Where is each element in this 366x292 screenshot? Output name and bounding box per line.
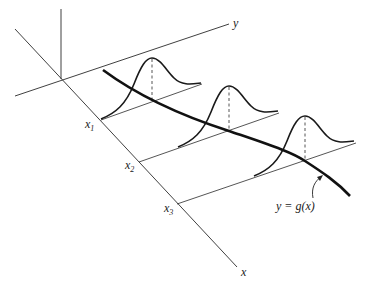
y-axis-label: y <box>232 16 239 30</box>
tick-label-x2: x2 <box>124 158 134 174</box>
regression-curve <box>103 70 350 196</box>
slice-line-x2 <box>139 113 279 162</box>
tick-label-x1: x1 <box>84 117 94 133</box>
tick-label-x3: x3 <box>163 201 173 217</box>
x-axis-label: x <box>240 265 247 279</box>
x-axis <box>15 29 237 267</box>
distribution-curve-x2 <box>178 86 278 147</box>
y-axis <box>15 24 229 96</box>
regression-diagram: y x x1 x2 x3 y = g(x) <box>0 0 366 292</box>
slice-line-x3 <box>177 143 356 204</box>
regression-curve-label: y = g(x) <box>275 199 315 213</box>
distribution-curve-x1 <box>101 58 201 119</box>
